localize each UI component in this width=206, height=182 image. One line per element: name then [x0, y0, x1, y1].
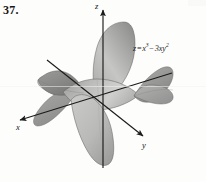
figure-container: 37. — [0, 0, 206, 182]
z-axis-label: z — [95, 1, 98, 11]
equation-term2-base: xy — [159, 44, 166, 53]
y-axis-label: y — [142, 140, 146, 150]
problem-number: 37. — [3, 3, 19, 18]
equation-label: z=x3−3xy2 — [133, 42, 169, 53]
surface-plot-svg — [0, 0, 206, 182]
equation-term2-exponent: 2 — [166, 42, 169, 48]
x-axis-label: x — [16, 122, 20, 132]
